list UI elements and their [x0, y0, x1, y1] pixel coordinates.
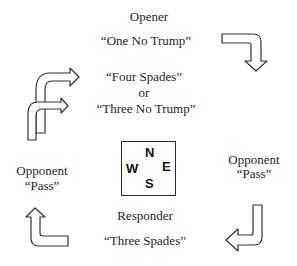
- arrow-right-opponent-to-responder: [226, 205, 262, 251]
- opener-bid: “One No Trump”: [101, 34, 191, 48]
- compass-box: N W E S: [121, 141, 176, 196]
- left-opponent-label: Opponent: [16, 164, 67, 178]
- left-opponent-bid: “Pass”: [25, 179, 60, 193]
- compass-east: E: [162, 160, 171, 173]
- compass-north: N: [145, 146, 154, 159]
- arrow-opener-to-right-opponent: [222, 34, 267, 71]
- compass-south: S: [145, 177, 154, 190]
- right-opponent-bid: “Pass”: [237, 167, 272, 181]
- responder-label: Responder: [117, 209, 173, 223]
- arrow-left-opponent-to-four-spades: [36, 68, 79, 133]
- compass-west: W: [126, 162, 138, 175]
- arrow-left-opponent-to-three-no-trump: [28, 98, 68, 140]
- opener-label: Opener: [130, 10, 168, 24]
- responder-bid: “Three Spades”: [104, 234, 186, 248]
- option-four-spades: “Four Spades”: [106, 70, 182, 84]
- right-opponent-label: Opponent: [228, 153, 279, 167]
- arrow-responder-to-left-opponent: [26, 208, 68, 246]
- option-three-no-trump: “Three No Trump”: [97, 102, 196, 116]
- option-connector: or: [139, 86, 150, 100]
